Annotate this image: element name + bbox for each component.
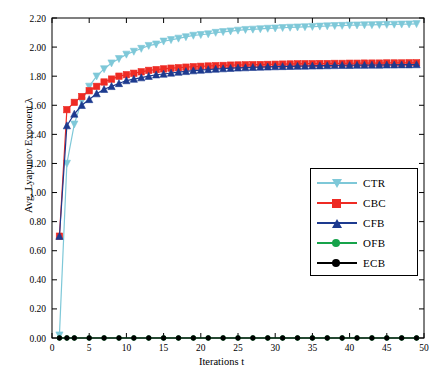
data-marker bbox=[93, 90, 100, 97]
data-marker bbox=[86, 96, 93, 103]
legend-item-cfb[interactable]: CFB bbox=[311, 213, 417, 233]
data-marker bbox=[399, 336, 404, 341]
data-marker bbox=[280, 336, 285, 341]
x-tick-label: 10 bbox=[122, 343, 132, 353]
data-marker bbox=[86, 88, 92, 94]
data-marker bbox=[130, 48, 137, 55]
legend-label: CTR bbox=[363, 177, 385, 189]
legend-marker-triangle-up-icon bbox=[332, 219, 342, 228]
y-tick-label: 2.00 bbox=[29, 43, 46, 53]
x-tick-label: 5 bbox=[87, 343, 92, 353]
x-tick-label: 40 bbox=[345, 343, 355, 353]
data-marker bbox=[64, 106, 70, 112]
data-marker bbox=[146, 336, 151, 341]
legend-item-cbc[interactable]: CBC bbox=[311, 193, 417, 213]
data-marker bbox=[57, 336, 62, 341]
data-marker bbox=[131, 336, 136, 341]
data-marker bbox=[100, 85, 107, 92]
data-marker bbox=[325, 336, 330, 341]
x-tick-label: 20 bbox=[196, 343, 206, 353]
legend-swatch-ecb bbox=[317, 256, 357, 270]
data-marker bbox=[340, 336, 345, 341]
data-marker bbox=[206, 336, 211, 341]
data-marker bbox=[102, 336, 107, 341]
data-marker bbox=[191, 336, 196, 341]
y-tick-label: 0.60 bbox=[29, 246, 46, 256]
data-marker bbox=[355, 336, 360, 341]
data-marker bbox=[414, 336, 419, 341]
data-marker bbox=[79, 93, 85, 99]
data-marker bbox=[123, 51, 130, 58]
data-marker bbox=[71, 99, 77, 105]
legend-item-ecb[interactable]: ECB bbox=[311, 253, 417, 273]
x-tick-label: 15 bbox=[159, 343, 169, 353]
x-tick-label: 45 bbox=[382, 343, 392, 353]
legend-swatch-ofb bbox=[317, 236, 357, 250]
legend-item-ctr[interactable]: CTR bbox=[311, 173, 417, 193]
data-marker bbox=[115, 80, 122, 87]
data-marker bbox=[384, 336, 389, 341]
data-marker bbox=[370, 336, 375, 341]
y-tick-label: 0.40 bbox=[29, 275, 46, 285]
data-marker bbox=[108, 60, 115, 67]
legend-marker-square-icon bbox=[332, 199, 341, 208]
data-marker bbox=[78, 101, 85, 108]
data-marker bbox=[64, 336, 69, 341]
data-marker bbox=[108, 83, 115, 90]
legend-marker-circle-icon bbox=[332, 259, 340, 267]
data-marker bbox=[63, 122, 70, 129]
y-tick-label: 0.20 bbox=[29, 304, 46, 314]
legend-marker-circle-icon bbox=[332, 239, 340, 247]
legend-label: ECB bbox=[363, 257, 385, 269]
data-marker bbox=[160, 38, 167, 45]
x-tick-label: 50 bbox=[419, 343, 429, 353]
data-marker bbox=[101, 79, 107, 85]
data-marker bbox=[108, 76, 114, 82]
data-marker bbox=[221, 336, 226, 341]
y-tick-label: 2.20 bbox=[29, 14, 46, 24]
x-tick-label: 25 bbox=[233, 343, 243, 353]
x-tick-label: 35 bbox=[308, 343, 318, 353]
data-marker bbox=[115, 56, 122, 63]
legend-item-ofb[interactable]: OFB bbox=[311, 233, 417, 253]
data-marker bbox=[250, 336, 255, 341]
x-axis-title: Iterations t bbox=[0, 356, 443, 367]
legend-swatch-cbc bbox=[317, 196, 357, 210]
data-marker bbox=[138, 45, 145, 52]
data-marker bbox=[93, 83, 99, 89]
y-tick-label: 0.00 bbox=[29, 334, 46, 344]
legend-swatch-ctr bbox=[317, 176, 357, 190]
chart-legend: CTRCBCCFBOFBECB bbox=[310, 168, 418, 276]
y-axis-title: Avg. Lyapunov Exponent λ bbox=[23, 66, 34, 246]
legend-label: OFB bbox=[363, 237, 385, 249]
data-marker bbox=[265, 336, 270, 341]
lyapunov-exponent-chart: 0.000.200.400.600.801.001.201.401.601.80… bbox=[0, 0, 443, 379]
x-tick-label: 30 bbox=[270, 343, 280, 353]
data-marker bbox=[87, 336, 92, 341]
data-marker bbox=[236, 336, 241, 341]
legend-label: CFB bbox=[363, 217, 385, 229]
x-tick-label: 0 bbox=[50, 343, 55, 353]
data-marker bbox=[145, 42, 152, 49]
data-marker bbox=[72, 336, 77, 341]
data-marker bbox=[295, 336, 300, 341]
data-marker bbox=[310, 336, 315, 341]
legend-label: CBC bbox=[363, 197, 386, 209]
legend-marker-triangle-down-icon bbox=[332, 179, 342, 188]
data-marker bbox=[116, 73, 122, 79]
data-marker bbox=[71, 121, 78, 128]
data-marker bbox=[161, 336, 166, 341]
data-marker bbox=[117, 336, 122, 341]
legend-swatch-cfb bbox=[317, 216, 357, 230]
data-marker bbox=[176, 336, 181, 341]
